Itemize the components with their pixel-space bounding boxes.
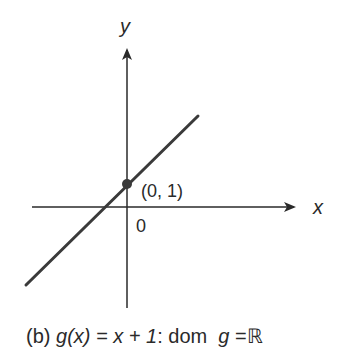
- caption-dom: dom: [168, 325, 207, 347]
- caption-set: ℝ: [247, 325, 263, 347]
- function-graph: y x (0, 1) 0: [0, 0, 343, 352]
- figure-caption: (b) g(x) = x + 1: dom g =ℝ: [26, 324, 263, 348]
- x-axis-label: x: [312, 196, 324, 218]
- origin-label: 0: [136, 216, 146, 236]
- caption-separator: :: [157, 325, 163, 347]
- caption-function: g(x) = x + 1: [56, 325, 157, 347]
- point-marker: [122, 179, 132, 189]
- caption-dom-var: g: [218, 325, 229, 347]
- caption-equals: =: [235, 325, 247, 347]
- point-label: (0, 1): [141, 181, 183, 201]
- caption-prefix: (b): [26, 325, 50, 347]
- y-axis-label: y: [118, 15, 131, 37]
